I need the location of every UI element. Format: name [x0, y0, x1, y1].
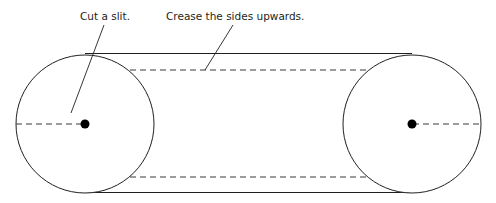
cylinder-net-diagram: Cut a slit. Crease the sides upwards.	[0, 0, 496, 203]
crease-the-sides-upwards-label: Crease the sides upwards.	[166, 10, 304, 22]
left-center-dot	[81, 120, 90, 129]
diagram-canvas: Cut a slit. Crease the sides upwards.	[0, 0, 496, 203]
crease-leader-line	[205, 25, 233, 70]
cut-a-slit-label: Cut a slit.	[80, 10, 130, 22]
right-center-dot	[408, 120, 417, 129]
